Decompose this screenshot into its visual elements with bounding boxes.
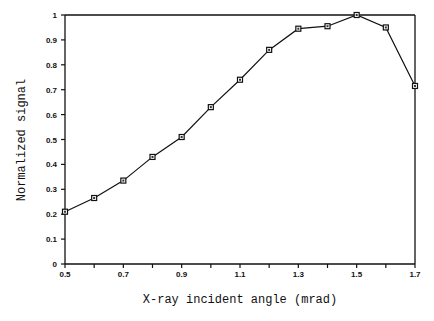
x-tick-label: 1.3 xyxy=(293,270,305,279)
x-tick-label: 1.5 xyxy=(351,270,363,279)
x-axis-ticks: 0.50.70.91.11.31.51.7 xyxy=(59,264,421,279)
marker-center xyxy=(181,136,183,138)
y-tick-label: 0.3 xyxy=(46,185,58,194)
y-tick-label: 0.8 xyxy=(46,61,58,70)
y-axis-title: Normalized signal xyxy=(15,79,29,201)
data-series xyxy=(63,13,418,215)
x-tick-label: 1.7 xyxy=(409,270,421,279)
marker-center xyxy=(152,156,154,158)
y-tick-label: 0.6 xyxy=(46,111,58,120)
y-tick-label: 0.4 xyxy=(46,160,58,169)
x-tick-label: 0.7 xyxy=(118,270,130,279)
line-chart: 00.10.20.30.40.50.60.70.80.91 0.50.70.91… xyxy=(0,0,434,321)
x-tick-label: 1.1 xyxy=(234,270,246,279)
y-axis-ticks: 00.10.20.30.40.50.60.70.80.91 xyxy=(46,11,65,269)
plot-frame xyxy=(65,15,415,264)
y-tick-label: 1 xyxy=(53,11,58,20)
x-tick-label: 0.9 xyxy=(176,270,188,279)
y-tick-label: 0 xyxy=(53,260,58,269)
y-tick-label: 0.9 xyxy=(46,36,58,45)
y-tick-label: 0.1 xyxy=(46,235,58,244)
marker-center xyxy=(385,26,387,28)
marker-center xyxy=(297,28,299,30)
marker-center xyxy=(93,197,95,199)
marker-center xyxy=(268,49,270,51)
marker-center xyxy=(210,106,212,108)
y-tick-label: 0.5 xyxy=(46,136,58,145)
x-axis-title: X-ray incident angle (mrad) xyxy=(143,293,337,307)
series-line xyxy=(65,15,415,212)
marker-center xyxy=(414,85,416,87)
marker-center xyxy=(64,211,66,213)
y-tick-label: 0.7 xyxy=(46,86,58,95)
marker-center xyxy=(356,14,358,16)
marker-center xyxy=(327,25,329,27)
y-tick-label: 0.2 xyxy=(46,210,58,219)
marker-center xyxy=(239,79,241,81)
marker-center xyxy=(122,180,124,182)
x-tick-label: 0.5 xyxy=(59,270,71,279)
